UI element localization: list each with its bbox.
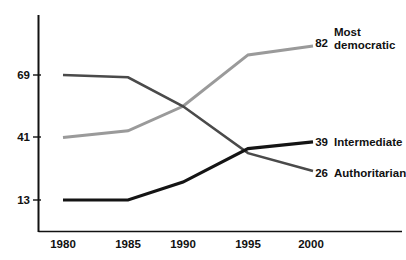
end-value-most-democratic: 82 — [315, 37, 328, 49]
y-tick-label-0: 69 — [17, 69, 30, 81]
x-tick-label-2: 1990 — [170, 238, 196, 250]
x-tick-label-4: 2000 — [298, 238, 324, 250]
series-line-authoritarian — [63, 75, 313, 171]
series-line-most-democratic — [63, 46, 313, 138]
x-tick-label-0: 1980 — [50, 238, 76, 250]
series-line-intermediate — [63, 142, 313, 200]
x-tick-label-1: 1985 — [115, 238, 141, 250]
y-tick-label-2: 13 — [17, 194, 30, 206]
y-tick-label-1: 41 — [17, 131, 30, 143]
legend-label-most-democratic-line2: democratic — [334, 39, 396, 51]
chart-canvas: 69 41 13 1980 1985 1990 1995 2000 82 39 … — [0, 0, 406, 260]
end-value-authoritarian: 26 — [315, 167, 328, 179]
legend-label-most-democratic-line1: Most — [334, 26, 361, 38]
legend-label-authoritarian: Authoritarian — [334, 167, 406, 179]
legend-label-intermediate: Intermediate — [334, 136, 402, 148]
end-value-intermediate: 39 — [315, 136, 328, 148]
x-tick-label-3: 1995 — [235, 238, 261, 250]
line-chart: 69 41 13 1980 1985 1990 1995 2000 82 39 … — [0, 0, 406, 260]
